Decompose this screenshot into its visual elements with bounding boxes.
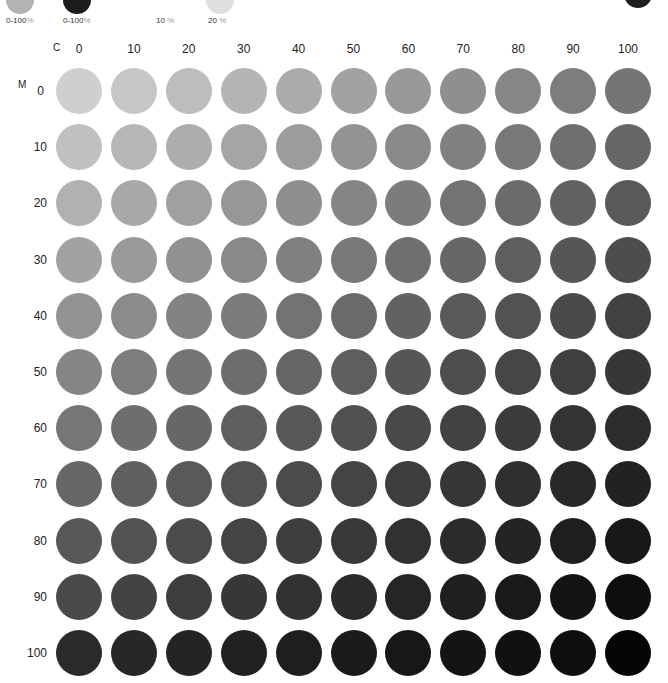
color-swatch-c20-m40 — [166, 293, 212, 339]
y-tick-label: 80 — [17, 534, 47, 548]
color-swatch-c30-m20 — [221, 180, 267, 226]
color-swatch-c60-m80 — [385, 518, 431, 564]
color-swatch-c60-m30 — [385, 237, 431, 283]
color-swatch-c70-m80 — [440, 518, 486, 564]
legend-label: 0-100% — [63, 16, 91, 25]
x-tick-label: 80 — [498, 42, 538, 56]
color-swatch-c10-m90 — [111, 574, 157, 620]
legend-swatch — [206, 0, 234, 14]
color-swatch-c10-m70 — [111, 461, 157, 507]
legend-swatch — [6, 0, 34, 14]
color-swatch-c0-m80 — [56, 518, 102, 564]
legend-label: 10 % — [156, 16, 174, 25]
color-swatch-c20-m60 — [166, 405, 212, 451]
color-swatch-c0-m60 — [56, 405, 102, 451]
color-swatch-c0-m100 — [56, 630, 102, 676]
color-swatch-c40-m10 — [276, 124, 322, 170]
color-swatch-c0-m70 — [56, 461, 102, 507]
color-swatch-c30-m10 — [221, 124, 267, 170]
color-swatch-c30-m60 — [221, 405, 267, 451]
color-swatch-c90-m60 — [550, 405, 596, 451]
color-swatch-c50-m50 — [331, 349, 377, 395]
color-swatch-c60-m10 — [385, 124, 431, 170]
color-swatch-c100-m20 — [605, 180, 651, 226]
x-tick-label: 30 — [224, 42, 264, 56]
x-tick-label: 90 — [553, 42, 593, 56]
y-tick-label: 0 — [14, 84, 44, 98]
color-swatch-c70-m90 — [440, 574, 486, 620]
color-swatch-c90-m90 — [550, 574, 596, 620]
color-swatch-c40-m30 — [276, 237, 322, 283]
color-swatch-c100-m60 — [605, 405, 651, 451]
y-tick-label: 40 — [17, 309, 47, 323]
color-swatch-c60-m70 — [385, 461, 431, 507]
y-tick-label: 100 — [17, 646, 47, 660]
color-swatch-c60-m60 — [385, 405, 431, 451]
color-swatch-c70-m10 — [440, 124, 486, 170]
color-swatch-c100-m0 — [605, 68, 651, 114]
color-swatch-c30-m40 — [221, 293, 267, 339]
legend-corner-swatch — [624, 0, 652, 8]
color-swatch-c10-m100 — [111, 630, 157, 676]
x-tick-label: 100 — [608, 42, 648, 56]
color-swatch-c50-m40 — [331, 293, 377, 339]
x-tick-label: 40 — [279, 42, 319, 56]
color-swatch-c80-m50 — [495, 349, 541, 395]
color-swatch-c70-m60 — [440, 405, 486, 451]
color-swatch-c50-m20 — [331, 180, 377, 226]
color-swatch-c40-m0 — [276, 68, 322, 114]
color-swatch-c20-m0 — [166, 68, 212, 114]
color-swatch-c10-m30 — [111, 237, 157, 283]
color-swatch-c100-m80 — [605, 518, 651, 564]
color-swatch-c90-m70 — [550, 461, 596, 507]
color-swatch-c10-m10 — [111, 124, 157, 170]
color-swatch-c90-m40 — [550, 293, 596, 339]
color-swatch-c40-m90 — [276, 574, 322, 620]
color-swatch-c50-m80 — [331, 518, 377, 564]
color-swatch-c30-m0 — [221, 68, 267, 114]
color-swatch-c0-m90 — [56, 574, 102, 620]
color-swatch-c100-m50 — [605, 349, 651, 395]
color-swatch-c20-m100 — [166, 630, 212, 676]
y-tick-label: 50 — [17, 365, 47, 379]
color-swatch-c20-m70 — [166, 461, 212, 507]
color-swatch-c50-m30 — [331, 237, 377, 283]
legend-swatch — [63, 0, 91, 14]
y-tick-label: 60 — [17, 421, 47, 435]
color-swatch-c70-m50 — [440, 349, 486, 395]
color-swatch-c10-m80 — [111, 518, 157, 564]
y-tick-label: 70 — [17, 477, 47, 491]
color-swatch-c90-m10 — [550, 124, 596, 170]
color-swatch-c80-m0 — [495, 68, 541, 114]
y-tick-label: 20 — [17, 196, 47, 210]
color-swatch-c60-m40 — [385, 293, 431, 339]
x-tick-label: 20 — [169, 42, 209, 56]
color-swatch-c50-m100 — [331, 630, 377, 676]
color-swatch-c100-m90 — [605, 574, 651, 620]
color-swatch-c90-m50 — [550, 349, 596, 395]
color-swatch-c30-m30 — [221, 237, 267, 283]
color-swatch-c70-m100 — [440, 630, 486, 676]
color-swatch-c50-m90 — [331, 574, 377, 620]
color-swatch-c80-m90 — [495, 574, 541, 620]
color-swatch-c40-m20 — [276, 180, 322, 226]
color-swatch-c90-m0 — [550, 68, 596, 114]
color-swatch-c20-m10 — [166, 124, 212, 170]
color-swatch-c100-m70 — [605, 461, 651, 507]
legend-label: 0-100% — [6, 16, 34, 25]
x-tick-label: 50 — [334, 42, 374, 56]
x-tick-label: 60 — [388, 42, 428, 56]
color-swatch-c50-m10 — [331, 124, 377, 170]
color-swatch-c70-m20 — [440, 180, 486, 226]
color-swatch-c90-m80 — [550, 518, 596, 564]
color-swatch-c80-m20 — [495, 180, 541, 226]
color-swatch-c80-m40 — [495, 293, 541, 339]
color-swatch-c70-m30 — [440, 237, 486, 283]
x-tick-label: 10 — [114, 42, 154, 56]
color-swatch-c100-m100 — [605, 630, 651, 676]
color-swatch-c60-m20 — [385, 180, 431, 226]
color-swatch-c20-m80 — [166, 518, 212, 564]
color-swatch-c0-m10 — [56, 124, 102, 170]
color-swatch-c60-m50 — [385, 349, 431, 395]
color-swatch-c20-m20 — [166, 180, 212, 226]
